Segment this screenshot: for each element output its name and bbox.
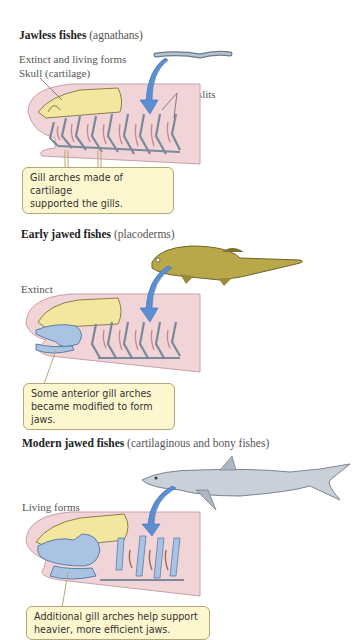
modern-head-diagram bbox=[0, 400, 358, 632]
callout-additional-arches: Additional gill arches help support heav… bbox=[26, 606, 210, 640]
section-jawless-fishes: Jawless fishes (agnathans) Extinct and l… bbox=[0, 0, 358, 200]
callout-line-1: Some anterior gill arches bbox=[31, 387, 167, 400]
callout-line-2: heavier, more efficient jaws. bbox=[34, 623, 202, 636]
callout-line-1: Gill arches made of cartilage bbox=[30, 171, 166, 197]
placoderm-head-diagram bbox=[0, 200, 358, 410]
section-early-jawed-fishes: Early jawed fishes (placoderms) Extinct bbox=[0, 200, 358, 410]
callout-line-1: Additional gill arches help support bbox=[34, 610, 202, 623]
section-modern-jawed-fishes: Modern jawed fishes (cartilaginous and b… bbox=[0, 400, 358, 632]
